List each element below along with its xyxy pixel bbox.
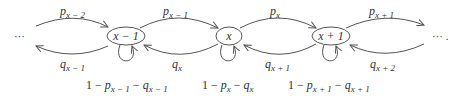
node-xm1: x − 1 — [107, 27, 145, 45]
right-ellipsis: ··· . — [432, 30, 449, 42]
edge-backward-xm1-to-left — [36, 46, 108, 54]
label-q-x: qx — [172, 57, 182, 73]
self-loop-label-xm1: 1 − px − 1 − qx − 1 — [86, 78, 168, 94]
self-loop-label-x: 1 − px − qx — [202, 78, 254, 94]
node-xp1: x + 1 — [312, 27, 350, 45]
markov-chain-diagram: ··· ··· . x − 1 x x + 1 px − 2 px − 1 px… — [0, 0, 466, 99]
label-p-xm2: px − 2 — [59, 4, 86, 20]
edge-backward-x-to-xm1 — [144, 44, 218, 54]
self-loop-x — [221, 45, 236, 61]
label-q-xp2: qx + 2 — [370, 57, 396, 73]
node-label: x — [225, 29, 232, 43]
left-ellipsis: ··· — [14, 30, 25, 42]
node-label: x + 1 — [317, 29, 343, 43]
self-loop-xm1 — [119, 45, 134, 61]
edge-backward-xp1-to-x — [244, 44, 316, 54]
label-q-xm1: qx − 1 — [60, 57, 85, 73]
edge-backward-right-to-xp1 — [350, 44, 424, 53]
label-p-xm1: px − 1 — [162, 4, 188, 20]
node-label: x − 1 — [112, 29, 138, 43]
self-loop-label-xp1: 1 − px + 1 − qx + 1 — [288, 78, 370, 94]
label-p-xp1: px + 1 — [368, 4, 394, 20]
self-loop-xp1 — [323, 45, 338, 61]
label-q-xp1: qx + 1 — [265, 57, 290, 73]
node-x: x — [216, 27, 242, 45]
label-p-x: px — [269, 4, 280, 20]
